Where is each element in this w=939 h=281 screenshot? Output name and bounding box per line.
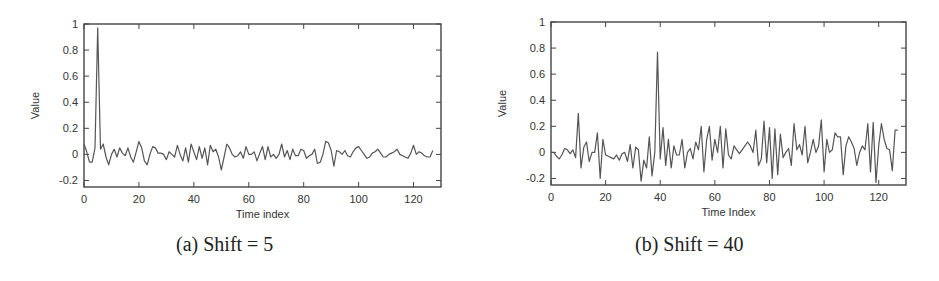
chart-panel-a: -0.200.20.40.60.81020406080100120Time in… [0,0,470,281]
y-tick-label: -0.2 [59,174,78,186]
x-tick-label: 80 [298,193,310,205]
x-tick-label: 60 [243,193,255,205]
caption-b: (b) Shift = 40 [635,233,744,256]
plot-frame [84,24,441,187]
x-tick-label: 0 [81,193,87,205]
y-axis-label: Value [29,92,41,119]
y-tick-label: 0.2 [530,120,545,132]
y-tick-label: 0 [539,146,545,158]
x-axis-label: Time index [236,208,290,220]
data-series-line [551,52,898,182]
y-axis-label: Value [496,90,508,117]
y-tick-label: 0 [72,148,78,160]
x-tick-label: 80 [763,191,775,203]
x-axis-label: Time Index [701,206,756,218]
x-tick-label: 100 [815,191,833,203]
caption-a: (a) Shift = 5 [176,233,273,256]
y-tick-label: 0.6 [63,70,78,82]
y-tick-label: 0.4 [530,94,545,106]
x-tick-label: 20 [599,191,611,203]
chart-panel-b: -0.200.20.40.60.81020406080100120Time In… [470,0,939,281]
y-tick-label: 1 [72,18,78,30]
y-tick-label: 0.4 [63,96,78,108]
x-tick-label: 100 [349,193,367,205]
y-tick-label: -0.2 [526,172,545,184]
y-tick-label: 0.8 [63,44,78,56]
y-tick-label: 0.8 [530,42,545,54]
y-tick-label: 0.2 [63,122,78,134]
x-tick-label: 120 [870,191,888,203]
x-tick-label: 40 [188,193,200,205]
data-series-line [84,28,433,170]
y-tick-label: 0.6 [530,68,545,80]
x-tick-label: 0 [548,191,554,203]
y-tick-label: 1 [539,16,545,28]
x-tick-label: 20 [133,193,145,205]
plot-frame [551,22,906,185]
x-tick-label: 120 [404,193,422,205]
x-tick-label: 60 [709,191,721,203]
x-tick-label: 40 [654,191,666,203]
